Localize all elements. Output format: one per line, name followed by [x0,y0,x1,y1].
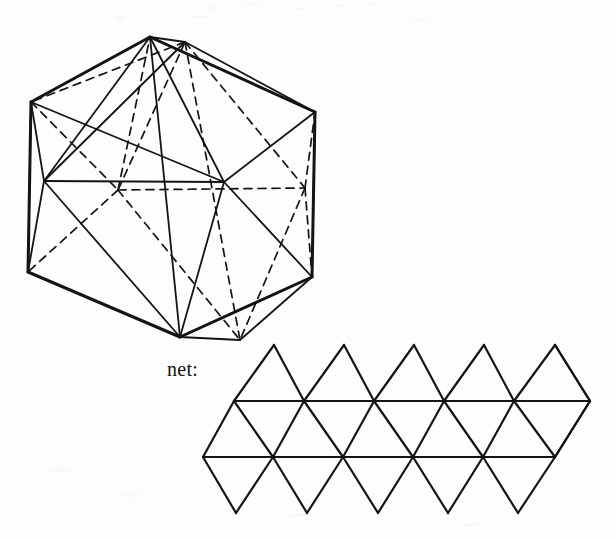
net-edge-upper-left [374,345,414,401]
net-edge-lower-right [378,457,413,513]
net-edge-middle-right [234,401,273,457]
visible-edge [224,182,312,277]
net-label: net: [167,358,198,381]
net-edge-upper-left [444,345,484,401]
net-edge-upper-right [274,345,304,401]
net-edge-upper-right [344,345,374,401]
net-edge-middle-left [413,401,444,457]
visible-edge [31,37,150,102]
hidden-edge [28,190,118,272]
net-edge-right-top [555,345,590,401]
visible-edge [224,112,315,182]
net-edge-middle-right [304,401,343,457]
net-edge-middle-right [374,401,413,457]
net-edge-lower-left [273,457,307,513]
net-edge-upper-right [414,345,444,401]
page-canvas: net: [0,0,616,539]
net-edge-middle-right [444,401,483,457]
figure-svg [0,0,616,539]
visible-edge [28,272,180,337]
net-edge-lower-right [518,457,555,513]
net-edge-lower-right [448,457,483,513]
visible-edge [150,37,224,182]
net-edge-lower-left [413,457,448,513]
visible-edge [240,277,312,340]
net-edge-middle-right [514,401,555,457]
net-edge-upper-left [234,345,274,401]
visible-edge [44,37,150,181]
visible-edge [44,42,185,181]
visible-edge [180,277,312,337]
icosahedron-net-drawing [203,345,590,513]
net-edge-upper-left [514,345,555,401]
visible-edge [150,37,180,337]
net-edge-lower-right [236,457,273,513]
net-edge-middle-left [273,401,304,457]
visible-edge [180,337,240,340]
visible-edge [44,181,224,182]
net-edge-upper-left [304,345,344,401]
net-edge-right-close [555,401,590,457]
icosahedron-drawing [28,37,315,340]
net-edge-lower-right [307,457,343,513]
net-edge-middle-left [343,401,374,457]
net-edge-middle-left [483,401,514,457]
visible-edge [44,181,180,337]
net-edge-lower-left [203,457,236,513]
net-edge-middle-left [203,401,234,457]
net-edge-lower-left [343,457,378,513]
hidden-edge [305,188,312,277]
visible-edge [185,42,315,112]
visible-edge [180,182,224,337]
net-edge-upper-right [484,345,514,401]
net-edge-lower-left [483,457,518,513]
